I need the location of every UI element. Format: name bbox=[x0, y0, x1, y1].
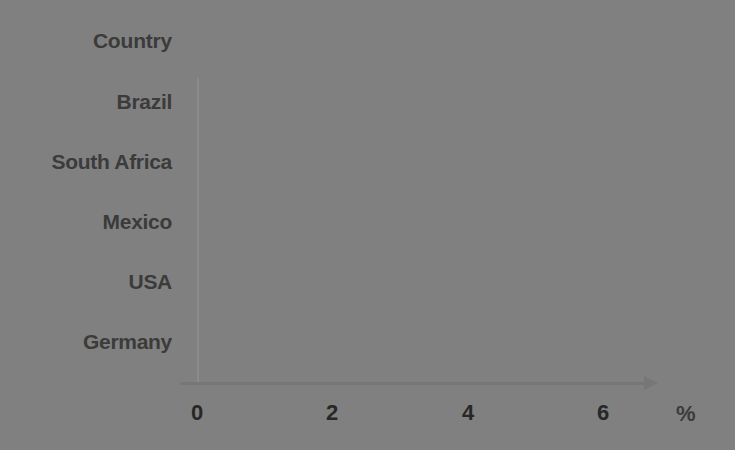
category-label-brazil: Brazil bbox=[0, 91, 172, 113]
category-label-mexico: Mexico bbox=[0, 211, 172, 233]
value-axis-unit-label: % bbox=[676, 401, 696, 427]
bar-brazil bbox=[199, 90, 578, 112]
value-axis-line bbox=[180, 382, 646, 385]
x-tick-label-6: 6 bbox=[583, 400, 623, 426]
category-label-usa: USA bbox=[0, 271, 172, 293]
x-tick-label-0: 0 bbox=[177, 400, 217, 426]
bar-chart: Country Brazil South Africa Mexico USA G… bbox=[0, 0, 735, 450]
bar-south-africa bbox=[199, 150, 558, 172]
category-label-germany: Germany bbox=[0, 331, 172, 353]
x-tick-label-2: 2 bbox=[312, 400, 352, 426]
value-axis-arrow-icon bbox=[644, 376, 658, 390]
category-axis-title: Country bbox=[0, 29, 172, 53]
bar-germany bbox=[199, 330, 402, 352]
plot-area bbox=[197, 78, 675, 378]
bar-usa bbox=[199, 270, 470, 292]
bar-mexico bbox=[199, 210, 514, 232]
category-label-south-africa: South Africa bbox=[0, 151, 172, 173]
x-tick-label-4: 4 bbox=[448, 400, 488, 426]
